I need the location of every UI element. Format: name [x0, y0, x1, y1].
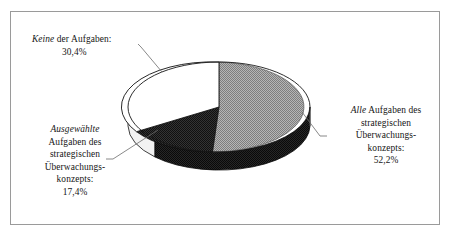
- callout-ausgewaehlte-line4: Überwachungs-: [15, 161, 135, 174]
- callout-label-keine: Keine der Aufgaben: 30,4%: [22, 33, 174, 58]
- callout-ausgewaehlte-line3: strategischen: [15, 148, 135, 161]
- pie-slice-top-faces: [121, 62, 304, 152]
- callout-alle-emphasis: Alle: [351, 105, 367, 115]
- callout-keine-line1: Keine der Aufgaben:: [22, 33, 174, 46]
- callout-alle-line4: konzepts:: [326, 142, 446, 155]
- callout-alle-rest: Aufgaben des: [366, 105, 421, 115]
- callout-keine-rest: der Aufgaben:: [54, 34, 111, 44]
- callout-alle-line2: strategischen: [326, 117, 446, 130]
- callout-label-alle: Alle Aufgaben des strategischen Überwach…: [326, 104, 446, 167]
- callout-keine-emphasis: Keine: [32, 34, 54, 44]
- callout-alle-line3: Überwachungs-: [326, 129, 446, 142]
- callout-ausgewaehlte-line2: Aufgaben des: [15, 136, 135, 149]
- pie-chart-area: Keine der Aufgaben: 30,4% Alle Aufgaben …: [0, 0, 455, 243]
- callout-ausgewaehlte-emphasis: Ausgewählte: [15, 123, 135, 136]
- callout-keine-value: 30,4%: [22, 46, 174, 59]
- callout-alle-value: 52,2%: [326, 154, 446, 167]
- callout-label-ausgewaehlte: Ausgewählte Aufgaben des strategischen Ü…: [15, 123, 135, 199]
- chart-page: Keine der Aufgaben: 30,4% Alle Aufgaben …: [0, 0, 455, 243]
- callout-ausgewaehlte-line5: konzepts:: [15, 173, 135, 186]
- callout-ausgewaehlte-value: 17,4%: [15, 186, 135, 199]
- callout-alle-line1: Alle Aufgaben des: [326, 104, 446, 117]
